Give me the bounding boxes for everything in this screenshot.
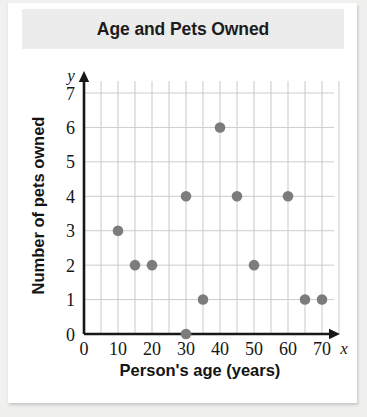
data-point — [181, 329, 192, 340]
data-point — [181, 191, 192, 202]
y-axis-arrow — [79, 71, 89, 82]
x-tick-label: 60 — [279, 339, 297, 355]
x-tick-label: 20 — [143, 339, 161, 355]
title-banner: Age and Pets Owned — [22, 9, 344, 49]
y-tick-label: 4 — [66, 187, 75, 207]
x-tick-label: 50 — [245, 339, 263, 355]
data-point — [215, 122, 226, 133]
x-axis-title: Person's age (years) — [54, 361, 346, 380]
y-tick-label: 6 — [66, 118, 75, 138]
plot-area: 010203040506070 01234567 xy — [56, 63, 348, 355]
data-point — [249, 260, 260, 271]
data-point — [130, 260, 141, 271]
data-point — [113, 225, 124, 236]
y-axis-title-container: Number of pets owned — [24, 63, 54, 348]
x-axis-variable-label: x — [339, 339, 348, 355]
x-axis-arrow — [329, 329, 340, 339]
y-tick-label: 2 — [66, 256, 75, 276]
y-axis-variable-label: y — [65, 66, 75, 85]
data-point — [283, 191, 294, 202]
data-point — [300, 294, 311, 305]
data-point — [147, 260, 158, 271]
page-title: Age and Pets Owned — [97, 19, 269, 40]
x-tick-label: 40 — [211, 339, 229, 355]
x-tick-label: 70 — [313, 339, 331, 355]
y-tick-labels: 01234567 — [66, 84, 75, 345]
y-tick-label: 0 — [66, 325, 75, 345]
x-tick-label: 10 — [109, 339, 127, 355]
chart-card: Age and Pets Owned Number of pets owned … — [8, 3, 357, 403]
y-tick-label: 5 — [66, 152, 75, 172]
scatter-plot: 010203040506070 01234567 xy — [56, 63, 348, 355]
axis-variable-labels: xy — [65, 66, 348, 355]
y-tick-label: 3 — [66, 221, 75, 241]
y-tick-label: 1 — [66, 290, 75, 310]
x-tick-label: 0 — [80, 339, 89, 355]
y-tick-label: 7 — [66, 84, 75, 104]
y-axis-title: Number of pets owned — [30, 117, 49, 295]
x-tick-label: 30 — [177, 339, 195, 355]
data-point — [232, 191, 243, 202]
data-point — [317, 294, 328, 305]
data-point — [198, 294, 209, 305]
horizontal-gridlines — [84, 93, 334, 300]
x-tick-labels: 010203040506070 — [80, 339, 332, 355]
